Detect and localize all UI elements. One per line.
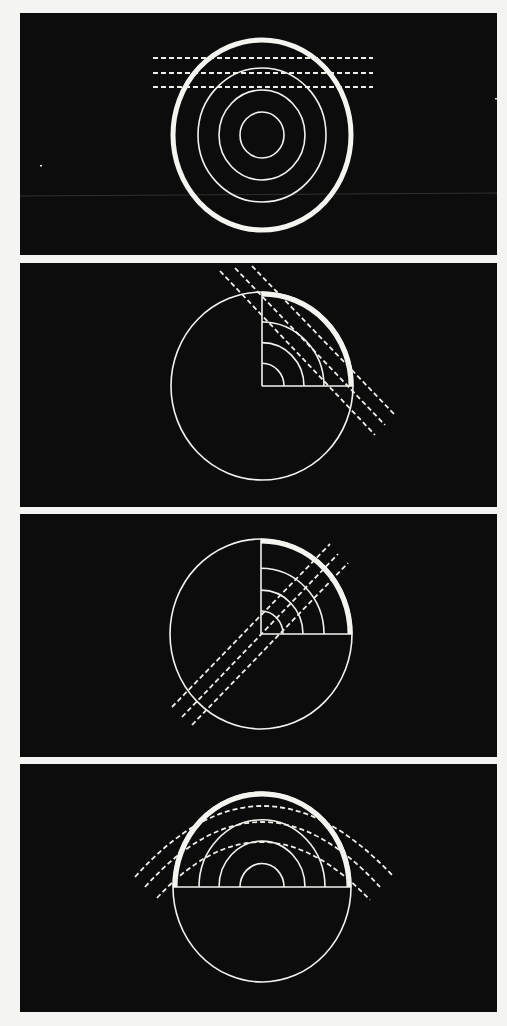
panel-2 [20, 263, 497, 507]
panel-background [20, 13, 497, 255]
panel-background [20, 263, 497, 507]
panel-background [20, 764, 497, 1012]
speck [40, 165, 42, 167]
panel-1 [20, 13, 497, 255]
speck [495, 98, 497, 100]
diagram-canvas [0, 0, 507, 1026]
panel-3 [20, 514, 497, 757]
panel-background [20, 514, 497, 757]
panel-4 [20, 764, 497, 1012]
